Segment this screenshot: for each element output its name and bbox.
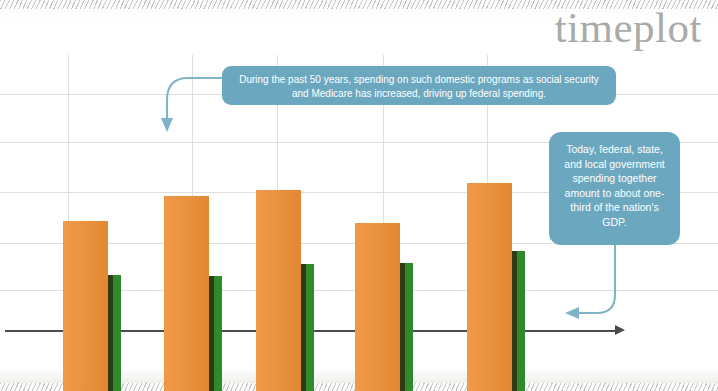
callout-federal-spending[interactable]: During the past 50 years, spending on su… <box>222 66 616 105</box>
x-axis-arrowhead-icon <box>615 325 625 335</box>
chart-page: timeplot <box>0 0 718 391</box>
bar-federal-1970[interactable] <box>63 221 108 391</box>
callout-gdp-share[interactable]: Today, federal, state, and local governm… <box>549 132 680 245</box>
bar-federal-2000[interactable] <box>355 223 400 391</box>
bar-federal-1990[interactable] <box>256 190 301 391</box>
bar-federal-2012[interactable] <box>467 183 512 391</box>
bar-federal-1980[interactable] <box>164 196 209 391</box>
